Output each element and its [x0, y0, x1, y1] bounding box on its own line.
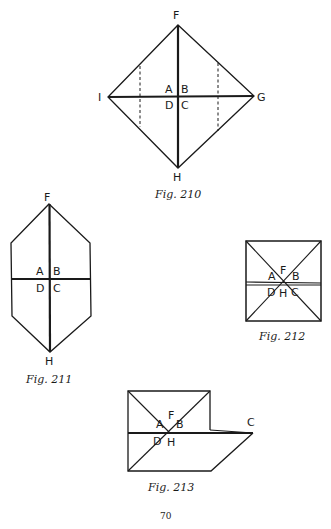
figure-212	[246, 241, 321, 321]
page-diagram: F I G H A B D C Fig. 210 F H A B D C Fig…	[0, 0, 331, 529]
horizontal-crease	[108, 96, 254, 97]
figure-212-labels: F A B D H C Fig. 212	[258, 264, 305, 343]
label-a: A	[165, 83, 173, 96]
label-b: B	[292, 270, 300, 283]
label-h: H	[173, 171, 181, 184]
label-a: A	[36, 265, 44, 278]
label-c: C	[181, 99, 189, 112]
label-b: B	[176, 418, 184, 431]
caption: Fig. 211	[25, 373, 72, 386]
caption: Fig. 212	[258, 330, 305, 343]
label-f: F	[173, 9, 179, 22]
label-h: H	[45, 355, 53, 368]
figure-210-labels: F I G H A B D C Fig. 210	[98, 9, 266, 201]
caption: Fig. 213	[147, 481, 194, 494]
label-a: A	[268, 270, 276, 283]
figure-213-labels: F A B D H C Fig. 213	[147, 409, 255, 494]
label-f: F	[44, 191, 50, 204]
label-h: H	[167, 436, 175, 449]
figure-210	[108, 25, 254, 168]
label-g: G	[257, 91, 266, 104]
label-b: B	[53, 265, 61, 278]
page-number: 70	[160, 511, 172, 521]
label-c: C	[291, 286, 299, 299]
label-b: B	[181, 83, 189, 96]
figure-211	[11, 204, 91, 352]
label-d: D	[153, 435, 161, 448]
label-f: F	[168, 409, 174, 422]
caption: Fig. 210	[154, 188, 201, 201]
label-h: H	[279, 287, 287, 300]
midline-upper	[246, 282, 321, 283]
label-i: I	[98, 91, 101, 104]
label-d: D	[165, 99, 173, 112]
label-c: C	[247, 416, 255, 429]
label-d: D	[267, 286, 275, 299]
label-d: D	[36, 282, 44, 295]
label-f: F	[280, 264, 286, 277]
outline	[128, 391, 253, 471]
figure-213	[128, 391, 253, 471]
diagonal-1	[128, 391, 170, 433]
label-c: C	[53, 282, 61, 295]
label-a: A	[156, 418, 164, 431]
